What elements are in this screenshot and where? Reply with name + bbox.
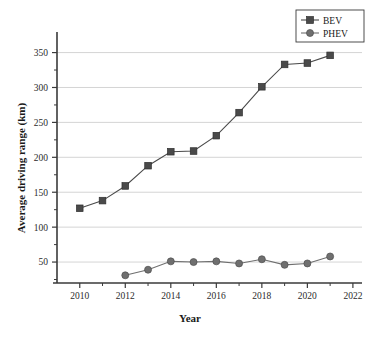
y-tick-label: 150 bbox=[34, 188, 49, 198]
chart-container: 2010201220142016201820202022 50100150200… bbox=[0, 0, 374, 339]
y-tick-label: 350 bbox=[34, 48, 49, 58]
legend-label-phev: PHEV bbox=[323, 29, 348, 39]
y-axis-title: Average driving range (km) bbox=[15, 103, 28, 234]
data-point-phev bbox=[190, 259, 197, 266]
data-point-bev bbox=[327, 52, 334, 59]
data-point-phev bbox=[145, 266, 152, 273]
data-point-phev bbox=[236, 260, 243, 267]
data-point-bev bbox=[304, 60, 311, 67]
data-point-bev bbox=[145, 162, 152, 169]
data-point-phev bbox=[327, 253, 334, 260]
data-point-phev bbox=[281, 261, 288, 268]
x-tick-label: 2022 bbox=[343, 291, 362, 301]
y-tick-label: 50 bbox=[39, 257, 49, 267]
x-tick-label: 2018 bbox=[252, 291, 271, 301]
legend-marker-bev-square-icon bbox=[307, 17, 314, 24]
data-point-phev bbox=[122, 272, 129, 279]
legend-label-bev: BEV bbox=[323, 16, 342, 26]
data-point-bev bbox=[236, 109, 243, 116]
x-tick-label: 2012 bbox=[116, 291, 135, 301]
y-tick-label: 300 bbox=[34, 83, 49, 93]
data-point-bev bbox=[213, 132, 220, 139]
data-point-phev bbox=[258, 256, 265, 263]
line-chart: 2010201220142016201820202022 50100150200… bbox=[0, 0, 374, 339]
x-tick-label: 2014 bbox=[161, 291, 180, 301]
y-tick-label: 250 bbox=[34, 118, 49, 128]
x-tick-label: 2016 bbox=[207, 291, 226, 301]
legend-marker-phev-circle-icon bbox=[307, 30, 314, 37]
y-tick-label: 100 bbox=[34, 223, 49, 233]
chart-background bbox=[0, 0, 374, 339]
x-tick-label: 2010 bbox=[70, 291, 89, 301]
data-point-phev bbox=[167, 258, 174, 265]
x-axis-title: Year bbox=[179, 312, 201, 324]
data-point-phev bbox=[213, 258, 220, 265]
y-tick-label: 200 bbox=[34, 153, 49, 163]
data-point-bev bbox=[281, 61, 288, 68]
data-point-bev bbox=[190, 148, 197, 155]
data-point-bev bbox=[99, 197, 106, 204]
data-point-bev bbox=[168, 148, 175, 155]
x-tick-label: 2020 bbox=[298, 291, 317, 301]
data-point-bev bbox=[122, 183, 129, 190]
legend: BEV PHEV bbox=[296, 10, 364, 42]
data-point-bev bbox=[76, 205, 83, 212]
data-point-bev bbox=[259, 83, 266, 90]
data-point-phev bbox=[304, 260, 311, 267]
